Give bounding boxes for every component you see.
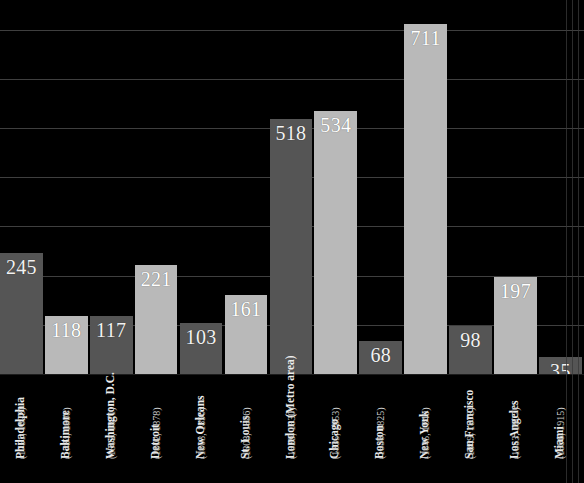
x-tick-10: San Francisco(1849, 1878) [449,374,492,483]
x-axis: Philadelphia(1751, 1828)Baltimore(1784, … [0,374,584,483]
bar-chart-figure: 245118117221103161518534687119819735 Phi… [0,0,584,483]
bar-value-label: 518 [270,122,313,144]
x-tick-2: Washington, D.C.(1802, 1871) [90,374,133,483]
x-tick-0: Philadelphia(1751, 1828) [0,374,43,483]
bar-value-label: 98 [449,329,492,351]
x-tick-12: Miami(1896, 1915) [539,374,582,483]
bar-9[interactable]: 711 [404,24,447,374]
x-tick-7: Chicago(1835, 1853) [314,374,357,483]
x-tick-years: (1829, 1830) [286,407,297,459]
x-tick-years: (1838, 1825) [375,407,386,459]
bar-value-label: 711 [404,27,447,49]
x-tick-years: (1802, 1871) [106,407,117,459]
plot-area: 245118117221103161518534687119819735 [0,0,584,374]
x-tick-years: (1845, 1849) [420,407,431,459]
bar-value-label: 103 [180,326,223,348]
x-tick-5: St. Louis(1808, 1836) [225,374,268,483]
x-tick-years: (1896, 1915) [555,407,566,459]
bar-value-label: 245 [0,256,43,278]
x-tick-years: (1784, 1808) [61,407,72,459]
bar-6[interactable]: 518 [270,119,313,374]
bar-value-label: 197 [494,280,537,302]
bar-value-label: 221 [135,268,178,290]
x-tick-years: (1853, 1907) [510,407,521,459]
bar-value-label: 117 [90,319,133,341]
page-edge-line-2 [572,0,573,483]
x-tick-years: (1802, 1878) [151,407,162,459]
bar-value-label: 534 [314,114,357,136]
x-tick-years: (1751, 1828) [16,407,27,459]
x-tick-years: (1835, 1853) [330,407,341,459]
x-tick-years: (1849, 1878) [465,407,476,459]
x-tick-years: (1803, 1890) [196,407,207,459]
page-edge-line-3 [578,0,579,483]
x-tick-11: Los Angeles(1853, 1907) [494,374,537,483]
x-tick-4: New Orleans(1803, 1890) [180,374,223,483]
page-edge-line-1 [566,0,567,483]
x-tick-1: Baltimore(1784, 1808) [45,374,88,483]
x-tick-years: (1808, 1836) [241,407,252,459]
bar-7[interactable]: 534 [314,111,357,374]
x-tick-6: London (Metro area)(1829, 1830) [270,374,313,483]
x-tick-8: Boston(1838, 1825) [359,374,402,483]
x-tick-3: Detroit(1802, 1878) [135,374,178,483]
bar-value-label: 118 [45,319,88,341]
x-tick-9: New York(1845, 1849) [404,374,447,483]
bar-value-label: 161 [225,298,268,320]
bars-group: 245118117221103161518534687119819735 [0,0,584,374]
